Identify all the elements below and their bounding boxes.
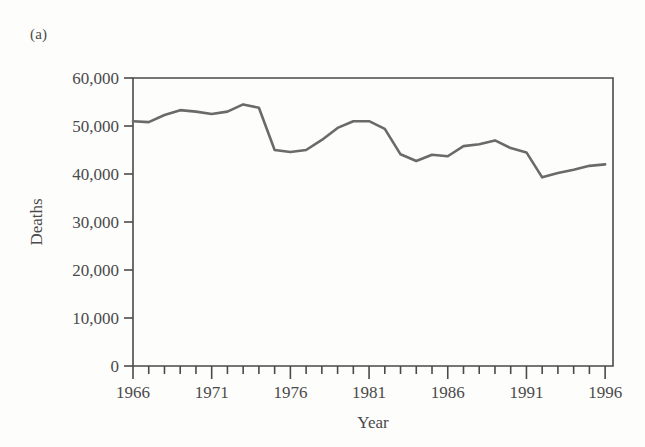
y-axis-tick-labels: 010,00020,00030,00040,00050,00060,000 [72, 69, 119, 376]
y-axis-title: Deaths [27, 198, 46, 245]
y-tick-label: 10,000 [72, 309, 119, 328]
x-tick-label: 1966 [116, 383, 150, 402]
deaths-by-year-line-chart: 010,00020,00030,00040,00050,00060,000 19… [0, 0, 645, 447]
data-series-line [133, 104, 605, 177]
deaths-line [133, 104, 605, 177]
x-tick-label: 1981 [352, 383, 386, 402]
y-tick-label: 40,000 [72, 165, 119, 184]
x-tick-label: 1991 [509, 383, 543, 402]
x-tick-label: 1976 [273, 383, 307, 402]
y-tick-label: 60,000 [72, 69, 119, 88]
y-tick-label: 50,000 [72, 117, 119, 136]
y-tick-label: 0 [111, 357, 120, 376]
y-tick-label: 30,000 [72, 213, 119, 232]
y-tick-label: 20,000 [72, 261, 119, 280]
figure-panel: (a) 010,00020,00030,00040,00050,00060,00… [0, 0, 645, 447]
x-tick-label: 1996 [588, 383, 622, 402]
x-axis-title: Year [357, 413, 389, 432]
y-axis-ticks [124, 78, 133, 366]
x-tick-label: 1971 [195, 383, 229, 402]
plot-frame [133, 78, 613, 366]
x-axis-ticks [133, 366, 605, 379]
x-axis-tick-labels: 1966197119761981198619911996 [116, 383, 622, 402]
x-tick-label: 1986 [431, 383, 465, 402]
